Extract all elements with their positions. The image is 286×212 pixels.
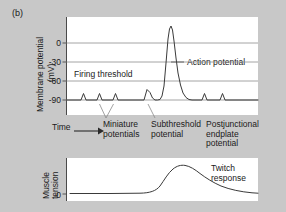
muscle-tension-trace: [70, 165, 258, 193]
subthreshold-potential-leader-line: [148, 104, 155, 118]
figure-canvas: (b) Membrane potential (mV) Muscle tensi…: [0, 0, 286, 212]
chart-vector-overlay: [0, 0, 286, 212]
miniature-potentials-leader-line: [100, 104, 114, 118]
membrane-potential-trace: [67, 26, 258, 100]
figure-panel-b: (b) Membrane potential (mV) Muscle tensi…: [0, 0, 286, 212]
time-axis-arrow-head: [98, 128, 104, 135]
